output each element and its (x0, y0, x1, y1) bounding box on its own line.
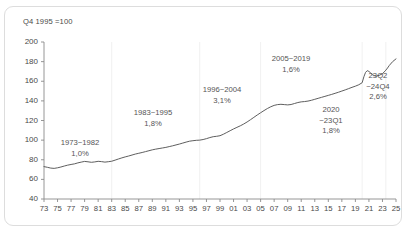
annotation-period-1996-2004: 1996~2004 3,1% (186, 85, 258, 106)
annotation-period-1973-1982: 1973~1982 1,0% (44, 138, 116, 159)
annotation-period-label: 2005~2019 (254, 54, 328, 65)
annotation-period-label-2: ~24Q4 (358, 82, 398, 93)
annotation-period-2020-23q1: 2020 ~23Q1 1,8% (311, 105, 351, 137)
annotation-rate-label: 1,6% (254, 65, 328, 76)
annotation-period-label: 23Q2 (358, 71, 398, 82)
annotation-period-label: 1983~1995 (117, 108, 189, 119)
annotation-period-label: 1973~1982 (44, 138, 116, 149)
annotation-rate-label: 1,8% (311, 126, 351, 137)
annotation-period-23q2-24q4: 23Q2 ~24Q4 2,6% (358, 71, 398, 103)
annotation-period-2005-2019: 2005~2019 1,6% (254, 54, 328, 75)
annotation-period-1983-1995: 1983~1995 1,8% (117, 108, 189, 129)
annotation-rate-label: 3,1% (186, 96, 258, 107)
annotation-period-label: 1996~2004 (186, 85, 258, 96)
annotation-rate-label: 1,8% (117, 119, 189, 130)
annotation-period-label-2: ~23Q1 (311, 116, 351, 127)
annotation-rate-label: 1,0% (44, 149, 116, 160)
annotation-rate-label: 2,6% (358, 92, 398, 103)
annotation-period-label: 2020 (311, 105, 351, 116)
